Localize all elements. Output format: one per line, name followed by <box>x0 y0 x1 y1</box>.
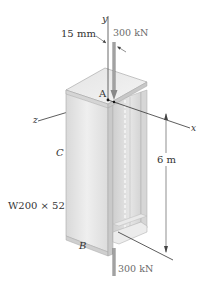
offset-label: 15 mm <box>61 28 96 39</box>
length-dimension-arrow-top <box>164 113 168 120</box>
load-top-label: 300 kN <box>113 27 148 38</box>
load-bottom-label: 300 kN <box>118 263 153 274</box>
right-flange-face <box>141 90 147 230</box>
column-diagram: y 15 mm 300 kN A z x C 6 m W200 × 52 B 3… <box>0 0 207 281</box>
y-axis-label: y <box>101 13 108 24</box>
load-arrow-bottom-shaft <box>113 248 116 276</box>
length-label: 6 m <box>157 154 177 165</box>
point-a-label: A <box>98 88 107 99</box>
section-label: W200 × 52 <box>8 200 65 211</box>
point-a-marker <box>107 99 110 102</box>
left-flange-thickness <box>108 102 113 256</box>
x-axis-label: x <box>191 123 196 133</box>
left-flange-face <box>66 90 108 252</box>
load-point-marker <box>113 101 115 103</box>
point-b-label: B <box>78 240 86 251</box>
z-axis-label: z <box>32 115 38 125</box>
load-arrow-top-shaft <box>113 42 116 92</box>
offset-leader-arrowhead <box>103 40 107 43</box>
point-c-label: C <box>56 147 64 158</box>
length-dimension-arrow-bottom <box>164 246 168 253</box>
